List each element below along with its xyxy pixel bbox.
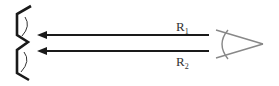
eye-icon <box>216 30 263 59</box>
arrowhead-icon <box>37 31 47 39</box>
ray-label-r1: R1 <box>176 19 189 36</box>
ray-diagram: R1 R2 <box>0 0 279 86</box>
arrowhead-icon <box>37 47 47 55</box>
ray-label-r2: R2 <box>176 54 189 71</box>
object-icon <box>17 6 31 80</box>
